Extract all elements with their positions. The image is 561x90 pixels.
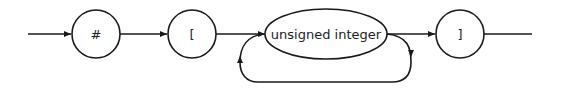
loop-arrow-down-icon [408, 50, 414, 57]
syntax-diagram: # [ unsigned integer ] [0, 0, 561, 90]
node-hash-label: # [91, 27, 102, 42]
node-rbracket-label: ] [457, 27, 462, 42]
node-lbracket-label: [ [189, 27, 194, 42]
loop-arrow-up-icon [237, 56, 243, 63]
node-unsigned-integer-label: unsigned integer [271, 27, 382, 42]
